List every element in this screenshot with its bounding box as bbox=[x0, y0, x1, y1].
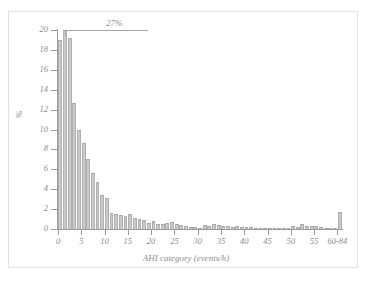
bar-32 bbox=[207, 226, 211, 229]
y-tick-label-8: 8 bbox=[22, 143, 48, 153]
bar-35 bbox=[221, 226, 225, 229]
y-tick-label-2: 2 bbox=[22, 203, 48, 213]
x-tick-5 bbox=[81, 230, 82, 235]
y-tick-16 bbox=[51, 70, 57, 71]
bar-3 bbox=[72, 103, 76, 229]
bar-45 bbox=[268, 228, 272, 229]
bar-55 bbox=[314, 226, 318, 229]
x-tick-60-84 bbox=[337, 230, 338, 235]
y-tick-6 bbox=[51, 169, 57, 170]
bar-12 bbox=[114, 214, 118, 229]
x-tick-15 bbox=[128, 230, 129, 235]
bar-29 bbox=[193, 227, 197, 229]
bar-50 bbox=[291, 226, 295, 229]
bar-10 bbox=[105, 198, 109, 229]
bar-23 bbox=[165, 223, 169, 229]
bar-7 bbox=[91, 173, 95, 229]
annotation-27-percent: 27% bbox=[106, 18, 123, 28]
bar-26 bbox=[179, 225, 183, 229]
y-tick-2 bbox=[51, 209, 57, 210]
bar-13 bbox=[119, 215, 123, 229]
y-tick-label-16: 16 bbox=[22, 64, 48, 74]
x-tick-label-60-84: 60-84 bbox=[320, 236, 354, 246]
bar-6 bbox=[86, 159, 90, 229]
x-tick-25 bbox=[174, 230, 175, 235]
bar-11 bbox=[110, 213, 114, 229]
y-tick-14 bbox=[51, 90, 57, 91]
bar-38 bbox=[235, 226, 239, 229]
bar-5 bbox=[82, 143, 86, 229]
y-tick-0 bbox=[51, 229, 57, 230]
bar-54 bbox=[310, 226, 314, 229]
y-tick-label-18: 18 bbox=[22, 44, 48, 54]
x-tick-50 bbox=[291, 230, 292, 235]
bar-4 bbox=[77, 130, 81, 230]
bar-46 bbox=[273, 228, 277, 229]
bar-57 bbox=[324, 228, 328, 229]
y-tick-12 bbox=[51, 110, 57, 111]
plot-area bbox=[58, 30, 342, 229]
y-tick-20 bbox=[51, 30, 57, 31]
y-tick-18 bbox=[51, 50, 57, 51]
y-tick-label-4: 4 bbox=[22, 183, 48, 193]
bar-44 bbox=[263, 228, 267, 229]
bar-28 bbox=[189, 227, 193, 229]
bar-43 bbox=[259, 228, 263, 229]
bar-33 bbox=[212, 224, 216, 229]
bar-47 bbox=[277, 228, 281, 229]
y-tick-label-10: 10 bbox=[22, 124, 48, 134]
bar-37 bbox=[231, 227, 235, 229]
bar-60 bbox=[338, 212, 342, 229]
x-tick-10 bbox=[105, 230, 106, 235]
bar-41 bbox=[249, 227, 253, 229]
x-axis-line bbox=[57, 229, 343, 230]
bar-58 bbox=[328, 228, 332, 229]
y-tick-label-6: 6 bbox=[22, 163, 48, 173]
bar-25 bbox=[175, 224, 179, 229]
y-tick-label-0: 0 bbox=[22, 223, 48, 233]
x-tick-55 bbox=[314, 230, 315, 235]
bar-9 bbox=[100, 195, 104, 229]
bar-0 bbox=[58, 40, 62, 229]
bar-56 bbox=[319, 227, 323, 229]
bar-22 bbox=[161, 224, 165, 229]
bar-15 bbox=[128, 214, 132, 229]
bar-34 bbox=[217, 225, 221, 229]
bar-39 bbox=[240, 227, 244, 229]
bar-30 bbox=[198, 228, 202, 229]
x-tick-45 bbox=[268, 230, 269, 235]
bar-31 bbox=[203, 225, 207, 229]
x-tick-30 bbox=[198, 230, 199, 235]
y-axis-title: % bbox=[14, 111, 24, 119]
x-axis-title: AHI category (events/h) bbox=[0, 253, 372, 263]
bar-51 bbox=[296, 227, 300, 229]
bar-18 bbox=[142, 220, 146, 229]
bar-16 bbox=[133, 218, 137, 229]
y-tick-10 bbox=[51, 130, 57, 131]
bar-52 bbox=[300, 224, 304, 229]
bar-59 bbox=[333, 228, 337, 229]
x-tick-0 bbox=[58, 230, 59, 235]
bar-40 bbox=[245, 227, 249, 229]
x-tick-35 bbox=[221, 230, 222, 235]
bar-27 bbox=[184, 226, 188, 229]
bar-36 bbox=[226, 226, 230, 229]
y-tick-label-12: 12 bbox=[22, 104, 48, 114]
y-tick-label-14: 14 bbox=[22, 84, 48, 94]
bar-19 bbox=[147, 223, 151, 229]
x-tick-20 bbox=[151, 230, 152, 235]
bar-21 bbox=[156, 224, 160, 229]
bar-2 bbox=[68, 38, 72, 229]
histogram-figure: 02468101214161820 0510152025303540455055… bbox=[0, 0, 372, 283]
annotation-leader-line bbox=[65, 30, 148, 31]
y-tick-8 bbox=[51, 149, 57, 150]
bar-17 bbox=[138, 219, 142, 229]
bar-24 bbox=[170, 222, 174, 229]
bar-1 bbox=[63, 30, 67, 229]
bar-53 bbox=[305, 226, 309, 229]
bar-49 bbox=[287, 228, 291, 229]
y-tick-4 bbox=[51, 189, 57, 190]
bar-48 bbox=[282, 228, 286, 229]
y-tick-label-20: 20 bbox=[22, 24, 48, 34]
bar-20 bbox=[152, 221, 156, 229]
